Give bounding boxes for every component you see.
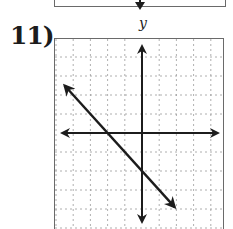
plotted-line [65,86,175,208]
previous-arrow-icon [135,0,145,10]
coordinate-plane [0,0,233,229]
